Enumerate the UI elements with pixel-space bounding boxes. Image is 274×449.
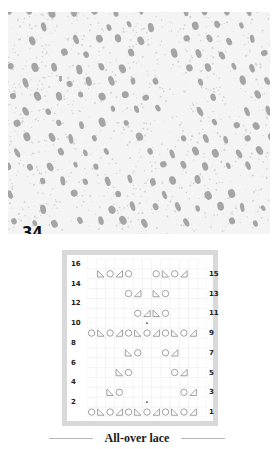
row-number-6: 6 xyxy=(71,359,76,367)
yarn-over-icon xyxy=(125,409,131,415)
yarn-over-icon xyxy=(135,310,141,316)
row-number-11: 11 xyxy=(209,309,219,317)
yarn-over-icon xyxy=(125,369,131,375)
row-number-4: 4 xyxy=(71,378,76,386)
lace-texture xyxy=(8,12,270,234)
left-decrease-icon xyxy=(125,350,131,356)
caption-rule-right xyxy=(181,438,225,439)
caption-rule-left xyxy=(49,438,93,439)
yarn-over-icon xyxy=(144,330,150,336)
yarn-over-icon xyxy=(125,271,131,277)
yarn-over-icon xyxy=(162,350,168,356)
right-decrease-icon xyxy=(190,330,196,336)
right-decrease-icon xyxy=(181,369,187,375)
yarn-over-icon xyxy=(88,409,94,415)
yarn-over-icon xyxy=(162,409,168,415)
right-decrease-icon xyxy=(181,271,187,277)
row-number-9: 9 xyxy=(209,329,214,337)
center-dot-icon xyxy=(146,401,148,403)
row-number-13: 13 xyxy=(209,290,219,298)
left-decrease-icon xyxy=(162,271,168,277)
left-decrease-icon xyxy=(171,330,177,336)
chart-caption: All-over lace xyxy=(0,430,274,446)
row-number-8: 8 xyxy=(71,339,76,347)
right-decrease-icon xyxy=(116,271,122,277)
row-number-5: 5 xyxy=(209,369,214,377)
right-decrease-icon xyxy=(153,409,159,415)
right-decrease-icon xyxy=(135,290,141,296)
right-decrease-icon xyxy=(144,310,150,316)
right-decrease-icon xyxy=(116,330,122,336)
yarn-over-icon xyxy=(181,389,187,395)
right-decrease-icon xyxy=(153,330,159,336)
yarn-over-icon xyxy=(181,330,187,336)
yarn-over-icon xyxy=(125,290,131,296)
yarn-over-icon xyxy=(116,389,122,395)
row-number-1: 1 xyxy=(209,408,214,416)
yarn-over-icon xyxy=(88,330,94,336)
yarn-over-icon xyxy=(135,350,141,356)
left-decrease-icon xyxy=(98,409,104,415)
yarn-over-icon xyxy=(107,409,113,415)
left-decrease-icon xyxy=(98,330,104,336)
yarn-over-icon xyxy=(144,409,150,415)
knitted-swatch-photo: 34 xyxy=(8,12,270,234)
left-decrease-icon xyxy=(135,409,141,415)
knitting-chart: 161412108642 15131197531 xyxy=(62,250,218,426)
yarn-over-icon xyxy=(153,271,159,277)
left-decrease-icon xyxy=(153,290,159,296)
left-decrease-icon xyxy=(171,409,177,415)
yarn-over-icon xyxy=(107,271,113,277)
center-dot-icon xyxy=(146,322,148,324)
pattern-number: 34 xyxy=(22,224,43,234)
left-decrease-icon xyxy=(135,330,141,336)
yarn-over-icon xyxy=(171,271,177,277)
right-decrease-icon xyxy=(190,389,196,395)
chart-grid xyxy=(87,259,207,417)
left-decrease-icon xyxy=(153,310,159,316)
right-decrease-icon xyxy=(116,409,122,415)
left-decrease-icon xyxy=(116,369,122,375)
row-number-16: 16 xyxy=(71,260,81,268)
right-decrease-icon xyxy=(171,350,177,356)
row-number-3: 3 xyxy=(209,388,214,396)
yarn-over-icon xyxy=(171,369,177,375)
row-number-14: 14 xyxy=(71,280,81,288)
yarn-over-icon xyxy=(181,409,187,415)
left-decrease-icon xyxy=(107,389,113,395)
right-decrease-icon xyxy=(190,409,196,415)
yarn-over-icon xyxy=(162,330,168,336)
chart-body: 161412108642 15131197531 xyxy=(67,255,213,421)
yarn-over-icon xyxy=(107,330,113,336)
caption-title: All-over lace xyxy=(105,431,170,446)
yarn-over-icon xyxy=(162,290,168,296)
row-number-12: 12 xyxy=(71,299,81,307)
row-number-10: 10 xyxy=(71,319,81,327)
yarn-over-icon xyxy=(125,330,131,336)
left-decrease-icon xyxy=(98,271,104,277)
yarn-over-icon xyxy=(162,310,168,316)
row-number-2: 2 xyxy=(71,398,76,406)
row-number-15: 15 xyxy=(209,270,219,278)
row-number-7: 7 xyxy=(209,349,214,357)
chart-symbols xyxy=(87,259,207,417)
